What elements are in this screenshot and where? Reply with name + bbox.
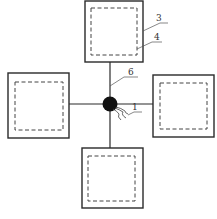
diagram-canvas: 3 4 6 1	[0, 0, 217, 219]
label-3: 3	[156, 13, 162, 23]
wavy-cable-2	[115, 108, 126, 118]
box-left-outer	[8, 73, 69, 138]
box-top-inner-dashed	[91, 8, 137, 55]
label-1: 1	[132, 102, 138, 112]
leader-1	[128, 112, 134, 115]
box-right-outer	[153, 75, 214, 137]
box-top-outer	[85, 1, 143, 62]
wavy-cable-1	[113, 109, 121, 120]
label-6: 6	[128, 67, 134, 77]
box-right-inner-dashed	[160, 83, 207, 129]
box-bottom-inner-dashed	[88, 156, 135, 201]
box-right	[153, 75, 214, 137]
box-left-inner-dashed	[15, 82, 63, 130]
center-node	[103, 97, 118, 112]
leader-4	[137, 42, 152, 49]
leader-6	[110, 77, 124, 86]
box-top	[85, 1, 143, 62]
box-bottom-outer	[82, 148, 143, 208]
leader-3	[143, 23, 160, 31]
box-bottom	[82, 148, 143, 208]
label-4: 4	[154, 32, 160, 42]
box-left	[8, 73, 69, 138]
